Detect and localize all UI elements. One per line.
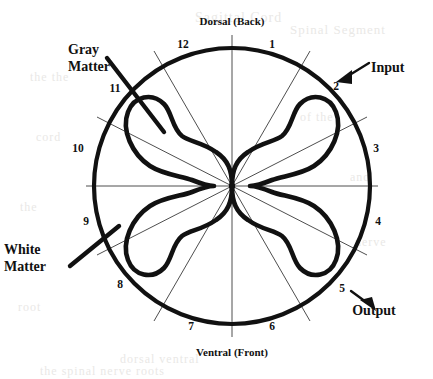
clock-numeral-3: 3: [373, 142, 379, 154]
gray-matter-callout: Gray Matter: [68, 42, 110, 74]
clock-numeral-2: 2: [333, 80, 339, 92]
input-arrow: [336, 63, 369, 84]
white-matter-pointer-line: [70, 226, 119, 266]
clock-numeral-8: 8: [117, 278, 123, 290]
gray-matter-label-line2: Matter: [68, 59, 110, 74]
clock-numeral-11: 11: [110, 82, 121, 94]
dorsal-back-label: Dorsal (Back): [199, 15, 264, 28]
clock-numeral-4: 4: [375, 215, 381, 227]
ventral-front-label: Ventral (Front): [196, 346, 268, 359]
white-matter-callout: White Matter: [4, 242, 46, 274]
clock-numeral-1: 1: [269, 38, 275, 50]
clock-numerals: 1 2 3 4 5 6 7 8 9 10 11 12: [72, 38, 381, 332]
white-matter-label-line1: White: [4, 242, 41, 257]
clock-numeral-12: 12: [177, 38, 189, 50]
gray-matter-label-line1: Gray: [68, 42, 99, 57]
clock-numeral-10: 10: [72, 142, 84, 154]
clock-numeral-6: 6: [269, 320, 275, 332]
input-label: Input: [371, 60, 405, 75]
clock-numeral-5: 5: [339, 282, 345, 294]
clock-numeral-9: 9: [83, 215, 89, 227]
white-matter-label-line2: Matter: [4, 259, 46, 274]
output-label: Output: [352, 303, 396, 318]
clock-numeral-7: 7: [188, 320, 194, 332]
central-canal-dot: [229, 183, 235, 189]
